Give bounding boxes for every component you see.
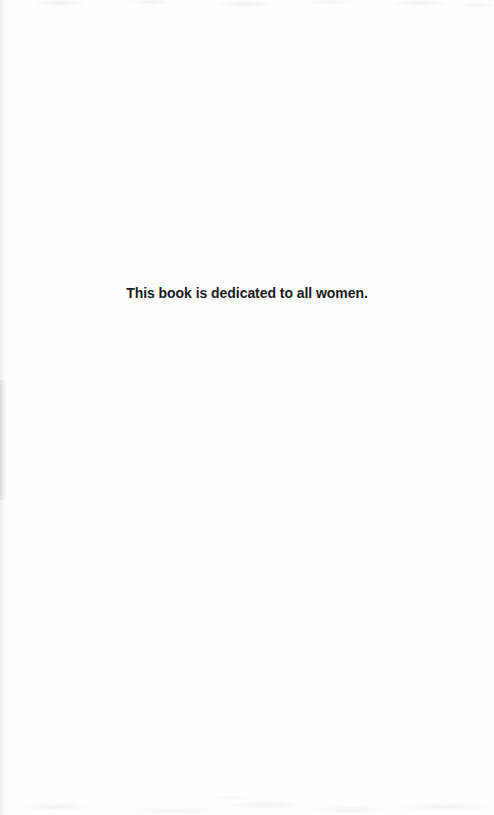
scan-gutter-shadow-patch — [0, 380, 7, 500]
scan-gutter-shadow-left — [0, 0, 9, 815]
scanned-dedication-page: This book is dedicated to all women. — [0, 0, 494, 815]
scan-speckle-artifacts — [0, 0, 494, 815]
dedication-block: This book is dedicated to all women. — [0, 284, 494, 302]
scan-noise-bottom-edge — [0, 781, 494, 815]
dedication-text: This book is dedicated to all women. — [126, 285, 368, 302]
scan-noise-top-edge — [0, 0, 494, 14]
